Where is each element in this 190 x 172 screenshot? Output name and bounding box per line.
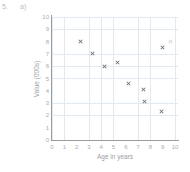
data-point-marker [126,81,131,86]
question-number: 5. [2,3,8,10]
x-tick-label: 4 [100,144,103,150]
x-tick-label: 0 [50,144,53,150]
x-tick-label: 3 [87,144,90,150]
x-tick-label: 7 [136,144,139,150]
y-axis-line [51,15,52,140]
x-tick-label: 6 [124,144,127,150]
x-axis-line [51,140,179,141]
x-tick-label: 10 [172,144,179,150]
scatter-chart: 012345678910 012345678910 Age in years V… [52,17,178,140]
y-tick-label: 4 [46,88,49,94]
data-point-marker [168,39,173,44]
major-gridlines [52,17,178,140]
y-tick-label: 5 [46,76,49,82]
x-tick-label: 2 [75,144,78,150]
data-point-marker [141,87,146,92]
data-point-marker [159,109,164,114]
x-tick-label: 9 [161,144,164,150]
data-point-marker [102,64,107,69]
x-tick-label: 8 [149,144,152,150]
x-axis-title: Age in years [97,153,133,160]
data-point-marker [142,99,147,104]
y-tick-label: 7 [46,51,49,57]
y-tick-label: 10 [42,14,49,20]
y-tick-label: 0 [46,137,49,143]
y-tick-label: 1 [46,125,49,131]
question-part-label: a) [20,3,27,10]
y-tick-label: 9 [46,26,49,32]
y-axis-title: Value (000s) [33,61,40,97]
y-tick-label: 3 [46,100,49,106]
x-tick-label: 1 [63,144,66,150]
y-tick-label: 6 [46,63,49,69]
plot-area [52,17,178,140]
y-tick-label: 8 [46,39,49,45]
y-tick-label: 2 [46,112,49,118]
data-point-marker [115,60,120,65]
minor-gridlines [52,17,178,140]
data-point-marker [160,45,165,50]
data-point-marker [78,39,83,44]
x-tick-label: 5 [112,144,115,150]
data-point-marker [90,51,95,56]
